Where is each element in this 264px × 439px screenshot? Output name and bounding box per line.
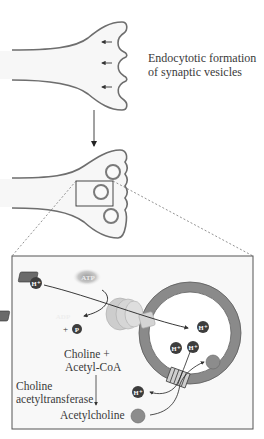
proton-label: H⁺ [171, 345, 180, 352]
substrates-label-2: Acetyl-CoA [65, 361, 121, 374]
zoom-projection-right [113, 181, 253, 256]
substrates-label-1: Choline + [64, 348, 110, 361]
phosphate-label: P [75, 326, 80, 334]
nerve-terminal-endocytosis [0, 22, 127, 110]
proton-cytosol: H⁺ [30, 277, 42, 289]
endocytosis-label-1: Endocytotic formation [148, 52, 256, 65]
atp-label: ATP [81, 274, 95, 282]
proton-vesicle: H⁺ [197, 321, 209, 333]
acetylcholine-vesicle [206, 355, 220, 369]
proton-label: H⁺ [198, 324, 207, 331]
product-label: Acetylcholine [60, 409, 125, 422]
adp-label: ADP [56, 313, 71, 321]
vesicle [104, 209, 118, 223]
vesicle [94, 185, 108, 199]
proton-vesicle: H⁺ [187, 341, 199, 353]
proton-label: H⁺ [133, 389, 142, 396]
acetylcholine-cytosol [131, 409, 145, 423]
endocytosis-label-2: of synaptic vesicles [148, 66, 242, 79]
proton-exported: H⁺ [132, 386, 144, 398]
enzyme-label-2: acetyltransferase [16, 393, 93, 406]
vesicle [106, 165, 120, 179]
terminal-membrane-top [12, 22, 127, 110]
proton-label: H⁺ [188, 344, 197, 351]
proton-vesicle: H⁺ [170, 342, 182, 354]
proton-label: H⁺ [31, 280, 40, 287]
terminal-membrane-middle [12, 150, 127, 238]
plus-sign: + [63, 324, 68, 334]
enzyme-label-1: Choline [16, 380, 52, 393]
nerve-terminal-vesicles [0, 150, 127, 238]
